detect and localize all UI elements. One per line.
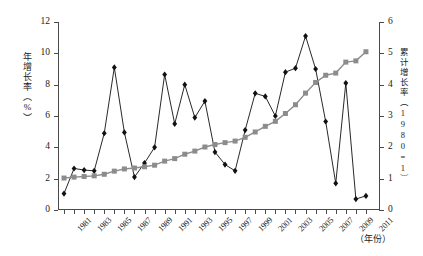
data-point-marker — [122, 166, 127, 171]
x-tick-label: 1981 — [75, 215, 94, 234]
data-point-marker — [162, 159, 167, 164]
x-tick-label: 2007 — [336, 215, 355, 234]
data-point-marker — [323, 73, 328, 78]
data-point-marker — [233, 168, 238, 174]
data-point-marker — [182, 152, 187, 157]
x-tick — [255, 210, 256, 214]
series-layer — [58, 22, 380, 210]
y-tick-label-right: 0 — [388, 204, 410, 214]
x-tick — [134, 210, 135, 214]
series-line — [64, 52, 366, 178]
y-tick-label-right: 5 — [388, 47, 410, 57]
x-tick — [356, 210, 357, 214]
x-tick-label: 1985 — [115, 215, 134, 234]
data-point-marker — [202, 145, 207, 150]
x-tick — [235, 210, 236, 214]
x-tick — [295, 210, 296, 214]
x-tick — [94, 210, 95, 214]
x-tick-label: 2005 — [316, 215, 335, 234]
data-point-marker — [72, 175, 77, 180]
data-point-marker — [343, 80, 348, 86]
x-axis-title: （年份） — [355, 232, 391, 245]
x-tick — [366, 210, 367, 214]
data-point-marker — [293, 102, 298, 107]
data-point-marker — [142, 164, 147, 169]
data-point-marker — [102, 130, 107, 136]
x-tick-label: 1987 — [135, 215, 154, 234]
x-tick — [74, 210, 75, 214]
y-tick-label-left: 0 — [28, 204, 50, 214]
y-tick-label-right: 6 — [388, 16, 410, 26]
data-point-marker — [112, 64, 117, 70]
data-point-marker — [223, 140, 228, 145]
y-tick-label-left: 10 — [28, 47, 50, 57]
x-tick — [195, 210, 196, 214]
data-point-marker — [253, 90, 258, 96]
x-tick-label: 1995 — [216, 215, 235, 234]
data-point-marker — [233, 139, 238, 144]
x-tick — [64, 210, 65, 214]
data-point-marker — [172, 156, 177, 161]
y-tick-label-right: 4 — [388, 79, 410, 89]
data-point-marker — [62, 190, 67, 196]
y-tick-label-right: 3 — [388, 110, 410, 120]
data-point-marker — [333, 71, 338, 76]
data-point-marker — [283, 69, 288, 75]
data-point-marker — [152, 163, 157, 168]
x-tick — [185, 210, 186, 214]
x-tick — [145, 210, 146, 214]
x-tick-label: 1989 — [155, 215, 174, 234]
y-tick-label-right: 1 — [388, 173, 410, 183]
x-tick-label: 2003 — [296, 215, 315, 234]
x-tick-label: 2009 — [357, 215, 376, 234]
x-tick — [215, 210, 216, 214]
data-point-marker — [253, 129, 258, 134]
x-tick-label: 2011 — [377, 215, 395, 233]
data-point-marker — [132, 166, 137, 171]
data-point-marker — [112, 169, 117, 174]
x-tick — [306, 210, 307, 214]
x-tick — [346, 210, 347, 214]
data-point-marker — [102, 172, 107, 177]
chart-container: 年增长率（%） 累计增长率（1980=1） 024681012 0123456 … — [0, 0, 423, 256]
data-point-marker — [364, 193, 369, 199]
data-point-marker — [273, 119, 278, 124]
series-line — [64, 36, 366, 199]
x-tick — [275, 210, 276, 214]
data-point-marker — [172, 121, 177, 127]
x-tick — [114, 210, 115, 214]
x-tick — [84, 210, 85, 214]
data-point-marker — [313, 80, 318, 85]
y-tick-label-left: 2 — [28, 173, 50, 183]
data-point-marker — [243, 127, 248, 133]
data-point-marker — [72, 165, 77, 171]
plot-area: 024681012 0123456 — [58, 22, 380, 210]
x-tick — [175, 210, 176, 214]
x-tick-label: 1999 — [256, 215, 275, 234]
data-point-marker — [333, 180, 338, 186]
data-point-marker — [162, 71, 167, 77]
x-tick-label: 1983 — [95, 215, 114, 234]
y-tick-label-left: 4 — [28, 141, 50, 151]
x-tick — [265, 210, 266, 214]
y-tick-left — [54, 210, 58, 211]
x-tick-label: 1997 — [236, 215, 255, 234]
data-point-marker — [82, 174, 87, 179]
data-point-marker — [293, 65, 298, 71]
y-tick-label-left: 6 — [28, 110, 50, 120]
data-point-marker — [263, 124, 268, 129]
x-tick — [124, 210, 125, 214]
x-tick-label: 2001 — [276, 215, 295, 234]
series-cumulative — [62, 49, 369, 180]
data-point-marker — [303, 91, 308, 96]
data-point-marker — [82, 167, 87, 173]
y-tick-label-left: 12 — [28, 16, 50, 26]
data-point-marker — [122, 129, 127, 135]
data-point-marker — [92, 173, 97, 178]
y-tick-right — [379, 210, 384, 211]
x-tick — [316, 210, 317, 214]
y-tick-label-left: 8 — [28, 79, 50, 89]
x-tick — [155, 210, 156, 214]
data-point-marker — [303, 33, 308, 39]
data-point-marker — [323, 118, 328, 124]
